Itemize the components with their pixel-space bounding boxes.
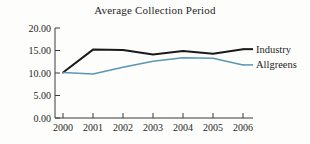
legend-label-industry: Industry bbox=[256, 44, 292, 55]
y-tick-label: 20.00 bbox=[29, 23, 52, 34]
x-tick-label: 2003 bbox=[143, 122, 163, 133]
y-axis-tick-labels: 0.005.0010.0015.0020.00 bbox=[29, 23, 52, 124]
line-chart-plot: 0.005.0010.0015.0020.00 2000200120022003… bbox=[0, 0, 310, 144]
y-tick-label: 15.00 bbox=[29, 45, 52, 56]
x-tick-label: 2006 bbox=[233, 122, 253, 133]
legend-label-allgreens: Allgreens bbox=[256, 59, 297, 70]
x-tick-label: 2001 bbox=[83, 122, 103, 133]
x-tick-label: 2004 bbox=[173, 122, 193, 133]
x-tick-label: 2000 bbox=[53, 122, 73, 133]
data-series-group bbox=[63, 49, 243, 74]
chart-container: Average Collection Period 0.005.0010.001… bbox=[0, 0, 310, 144]
y-tick-label: 0.00 bbox=[34, 113, 52, 124]
y-tick-label: 5.00 bbox=[34, 90, 52, 101]
chart-legend: IndustryAllgreens bbox=[243, 44, 297, 71]
series-line-allgreens bbox=[63, 58, 243, 74]
x-tick-label: 2002 bbox=[113, 122, 133, 133]
x-axis-tick-labels: 2000200120022003200420052006 bbox=[53, 122, 253, 133]
y-tick-label: 10.00 bbox=[29, 68, 52, 79]
x-tick-label: 2005 bbox=[203, 122, 223, 133]
